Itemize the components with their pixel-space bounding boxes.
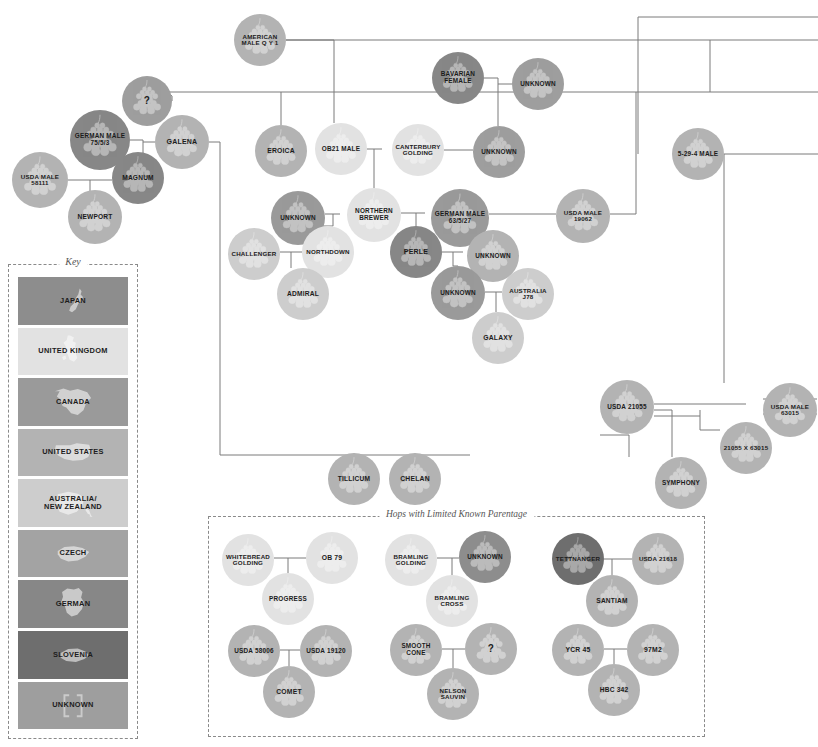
node-comet[interactable]: COMET [263,666,315,718]
node-label: BAVARIAN FEMALE [434,71,482,84]
node-label: CANTERBURY GOLDING [394,144,442,157]
node-label: GALENA [166,138,199,145]
key-swatch-label: SLOVENIA [53,651,93,659]
node-progress[interactable]: PROGRESS [262,573,314,625]
node-label: USDA 21055 [606,404,647,411]
node-ob21-male[interactable]: OB21 MALE [315,123,367,175]
node-label: SANTIAM [595,598,628,605]
key-legend: Key JAPANUNITED KINGDOMCANADAUNITED STAT… [8,264,138,739]
key-swatch-australia-new-zealand: AUSTRALIA/NEW ZEALAND [18,479,128,527]
node-canterbury-golding[interactable]: CANTERBURY GOLDING [392,124,444,176]
node-label: CHALLENGER [231,251,278,257]
node-tillicum[interactable]: TILLICUM [328,453,380,505]
node-chelan[interactable]: CHELAN [389,453,441,505]
key-swatch-slovenia: SLOVENIA [18,631,128,679]
key-swatch-canada: CANADA [18,378,128,426]
node-label: WHITEBREAD GOLDING [224,554,272,567]
key-title: Key [59,256,87,267]
key-swatch-german: GERMAN [18,580,128,628]
node-usda-male-58111[interactable]: USDA MALE 58111 [12,152,68,208]
node-label: ? [487,644,495,654]
node-american-male-qy1[interactable]: AMERICAN MALE Q Y 1 [234,14,286,66]
node-unknown-cant[interactable]: UNKNOWN [473,126,525,178]
node-21055-x-63015[interactable]: 21055 X 63015 [720,422,772,474]
node-label: GALAXY [482,335,514,342]
node-label: 5-29-4 MALE [677,151,720,158]
limited-parentage-title: Hops with Limited Known Parentage [379,509,534,519]
node-label: OB21 MALE [321,146,361,153]
node-santiam[interactable]: SANTIAM [586,575,638,627]
node-label: 21055 X 63015 [723,445,770,451]
node-usda-21618[interactable]: USDA 21618 [632,533,684,585]
node-galaxy[interactable]: GALAXY [472,312,524,364]
node-newport[interactable]: NEWPORT [68,190,122,244]
node-label: USDA MALE 58111 [14,174,66,187]
key-swatch-unknown: UNKNOWN [18,682,128,730]
node-hbc-342[interactable]: HBC 342 [588,664,640,716]
node-nelson-sauvin[interactable]: NELSON SAUVIN [427,668,479,720]
node-label: UNKNOWN [439,290,476,297]
node-label: USDA 58006 [233,648,274,655]
node-label: NORTHDOWN [305,249,350,255]
node-label: GERMAN MALE 63/5/27 [433,211,487,224]
key-items: JAPANUNITED KINGDOMCANADAUNITED STATESAU… [18,277,128,729]
node-label: GERMAN MALE 75/5/3 [72,133,128,146]
key-swatch-label: UNITED KINGDOM [38,347,107,355]
node-label: NEWPORT [76,214,113,221]
node-label: COMET [275,689,303,696]
node-label: ? [143,96,151,106]
node-label: AUSTRALIA J78 [504,288,552,301]
key-swatch-united-states: UNITED STATES [18,429,128,477]
node-label: YCR 45 [565,647,592,654]
node-label: MAGNUM [121,175,155,182]
node-label: UNKNOWN [474,253,511,260]
node-label: PROGRESS [268,596,308,603]
node-eroica[interactable]: EROICA [255,125,307,177]
node-label: UNKNOWN [480,149,517,156]
node-usda-male-19062[interactable]: USDA MALE 19062 [556,189,610,243]
node-label: SMOOTH CONE [392,643,440,656]
key-swatch-czech: CZECH [18,530,128,578]
node-usda-21055[interactable]: USDA 21055 [600,380,654,434]
node-label: TILLICUM [337,476,371,483]
node-label: UNKNOWN [519,81,556,88]
key-swatch-label: CZECH [60,549,87,557]
genealogy-diagram: Key JAPANUNITED KINGDOMCANADAUNITED STAT… [0,0,818,747]
node-bavarian-female[interactable]: BAVARIAN FEMALE [432,52,484,104]
node-label: NORTHERN BREWER [349,208,399,221]
node-bramling-cross[interactable]: BRAMLING CROSS [426,575,478,627]
node-label: UNKNOWN [279,215,316,222]
node-5-29-4-male[interactable]: 5-29-4 MALE [672,128,724,180]
key-swatch-united-kingdom: UNITED KINGDOM [18,328,128,376]
key-swatch-label: GERMAN [56,600,91,608]
key-swatch-label: AUSTRALIA/NEW ZEALAND [44,495,102,512]
node-label: CHELAN [399,476,431,483]
node-label: SYMPHONY [661,480,701,487]
node-label: TETTNANGER [555,556,601,562]
node-label: USDA 21618 [638,556,678,562]
node-label: BRAMLING GOLDING [387,554,435,567]
key-swatch-label: JAPAN [60,297,86,305]
key-swatch-label: UNITED STATES [42,448,104,456]
node-label: PERLE [403,248,429,255]
node-label: USDA MALE 63015 [765,404,815,417]
node-unknown-bavaria[interactable]: UNKNOWN [512,58,564,110]
key-swatch-label: CANADA [56,398,90,406]
node-label: OB 79 [321,555,344,562]
node-label: AMERICAN MALE Q Y 1 [236,34,284,47]
node-label: BRAMLING CROSS [428,595,476,608]
node-label: ADMIRAL [286,291,320,298]
node-challenger[interactable]: CHALLENGER [228,228,280,280]
node-label: HBC 342 [599,687,630,694]
node-label: UNKNOWN [466,554,503,561]
key-swatch-japan: JAPAN [18,277,128,325]
node-label: USDA 19120 [305,648,346,655]
node-label: USDA MALE 19062 [558,210,608,223]
key-swatch-label: UNKNOWN [52,701,94,709]
node-label: EROICA [266,148,296,155]
node-admiral[interactable]: ADMIRAL [277,268,329,320]
node-symphony[interactable]: SYMPHONY [655,457,707,509]
node-label: NELSON SAUVIN [429,688,477,701]
node-label: 97M2 [643,647,663,654]
